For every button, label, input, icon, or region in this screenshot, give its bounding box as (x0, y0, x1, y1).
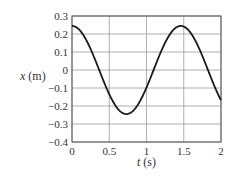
x-axis-label: t(s) (137, 155, 156, 169)
line-chart: 0.30.20.10−0.1−0.2−0.3−0.4 00.511.52 x(m… (0, 0, 231, 185)
svg-text:1.5: 1.5 (177, 145, 191, 157)
y-axis-label: x(m) (19, 69, 46, 83)
svg-text:0.3: 0.3 (54, 10, 68, 22)
grid-lines (72, 16, 221, 142)
svg-text:−0.1: −0.1 (48, 82, 68, 94)
svg-text:−0.2: −0.2 (48, 100, 68, 112)
svg-text:−0.4: −0.4 (48, 136, 68, 148)
svg-text:0.2: 0.2 (54, 28, 68, 40)
svg-text:0: 0 (63, 64, 69, 76)
svg-text:0: 0 (69, 145, 75, 157)
svg-text:−0.3: −0.3 (48, 118, 68, 130)
svg-text:0.5: 0.5 (102, 145, 116, 157)
svg-text:2: 2 (218, 145, 224, 157)
svg-text:0.1: 0.1 (54, 46, 68, 58)
y-tick-labels: 0.30.20.10−0.1−0.2−0.3−0.4 (48, 10, 68, 148)
